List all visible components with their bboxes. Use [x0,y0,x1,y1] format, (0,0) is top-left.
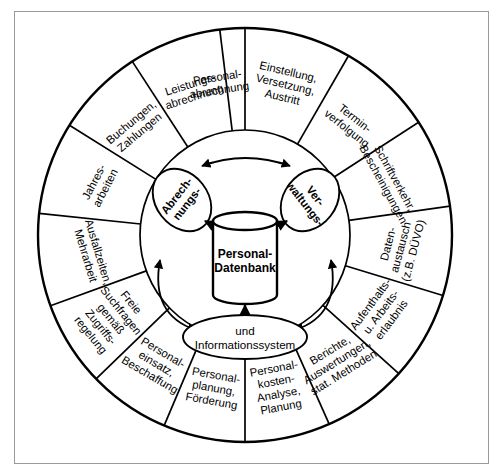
informationssystem-line1: und [235,324,254,337]
informationssystem-ellipse [183,315,307,359]
database-label-line1: Personal- [218,247,273,261]
right-bidirectional-arc-arrow [295,260,333,330]
segment-personalkosten-analyse-planung[interactable]: Personal-kosten-Analyse,Planung [249,358,306,417]
database-label-line2: Datenbank [214,261,276,275]
left-bidirectional-arc-arrow [158,260,196,330]
segment-personalabrechnung[interactable]: Personal-abrechnung [187,66,250,100]
segment-termin-verfolgung[interactable]: Termin-verfolgung [322,97,379,150]
core-hub-group: Abrech- nungs- Ver- waltungs- Personal- … [141,157,352,359]
segment-freie-suchfragen-zugriffsregelung[interactable]: FreieSuchfragengemäßZugriffs-regelung [68,276,154,362]
segment-ausfallzeiten-mehrarbeit[interactable]: Ausfallzeiten,Mehrarbeit [70,218,114,290]
segment-einstellung-versetzung-austritt[interactable]: Einstellung,Versetzung,Austritt [252,59,319,110]
personnel-database-wheel-diagram: Einstellung,Versetzung,AustrittTermin-ve… [0,0,500,475]
top-bidirectional-arc-arrow [202,158,290,166]
segment-datenaustausch-duevo[interactable]: Daten-austausch(z.B. DÜVO) [374,212,427,283]
segment-personaleinsatz-beschaffung[interactable]: Personal-einsatz,Beschaffung [120,331,194,396]
segment-jahresarbeiten[interactable]: Jahres-arbeiten [79,161,120,209]
segment-buchungen-zahlungen[interactable]: Buchungen,Zahlungen [104,98,167,156]
informationssystem-line2: Informationssystem [195,338,296,351]
segment-personalplanung-foerderung[interactable]: Personal-planung,Förderung [185,365,243,412]
